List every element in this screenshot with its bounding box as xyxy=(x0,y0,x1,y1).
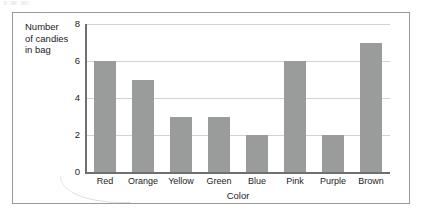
figure-frame xyxy=(12,12,410,204)
scan-artifact-top xyxy=(4,1,32,5)
